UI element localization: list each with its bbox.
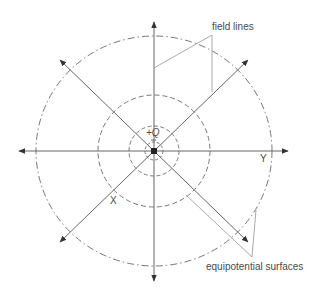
- callout-leaders: [154, 35, 256, 257]
- field-diagram: [0, 0, 322, 296]
- point-charge: [151, 148, 157, 154]
- field-lines-leader: [154, 35, 212, 92]
- field-line-lower-right: [154, 151, 248, 242]
- field-line-upper-left: [60, 60, 154, 151]
- field-lines-callout: field lines: [212, 22, 254, 32]
- charge-label: +Q: [146, 128, 160, 138]
- equipotential-leader: [186, 195, 256, 257]
- field-line-lower-left: [60, 151, 154, 242]
- axis-x-label: X: [110, 196, 117, 206]
- equipotential-callout: equipotential surfaces: [206, 262, 303, 272]
- axis-y-label: Y: [260, 154, 267, 164]
- field-line-upper-right: [154, 60, 248, 151]
